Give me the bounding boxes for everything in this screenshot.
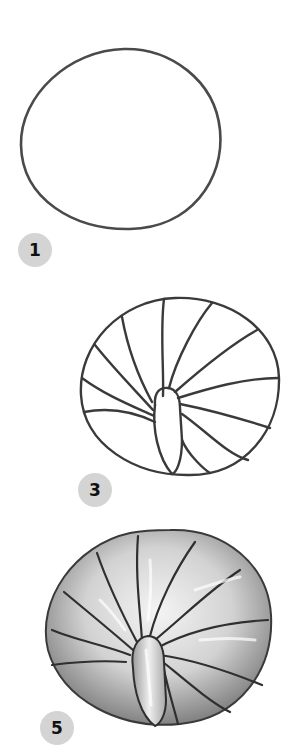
step-5-shaded-shell-drawing <box>0 510 304 741</box>
step-number-badge: 3 <box>78 473 112 507</box>
step-1: 1 <box>0 0 304 280</box>
step-3-segmented-shell-drawing <box>0 280 304 510</box>
step-number: 5 <box>51 718 63 738</box>
step-number-badge: 1 <box>18 233 52 267</box>
step-number: 3 <box>89 480 101 500</box>
step-number-badge: 5 <box>40 711 74 745</box>
step-number: 1 <box>29 240 41 260</box>
step-5: 5 <box>0 510 304 741</box>
step-3: 3 <box>0 280 304 510</box>
